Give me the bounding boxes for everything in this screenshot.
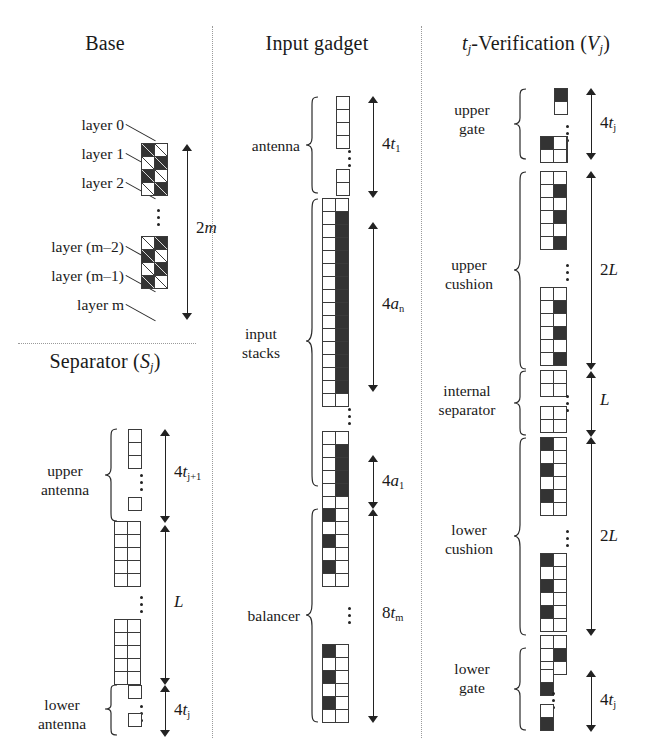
cell-empty bbox=[114, 645, 128, 659]
cell-empty bbox=[553, 450, 567, 464]
cell-empty bbox=[540, 383, 554, 397]
separator-lower-antenna-tail bbox=[129, 714, 142, 727]
cell-filled bbox=[540, 717, 554, 731]
cell-filled bbox=[154, 236, 168, 250]
cell-empty bbox=[322, 483, 336, 497]
cell-empty bbox=[540, 618, 554, 632]
verification-upper-gate-measure: 4tj bbox=[600, 113, 616, 133]
verification-internal-separator-top bbox=[541, 371, 567, 397]
cell-empty bbox=[540, 502, 554, 516]
cell-empty bbox=[335, 534, 349, 548]
cell-empty bbox=[553, 463, 567, 477]
cell-empty bbox=[540, 450, 554, 464]
cell-filled bbox=[335, 250, 349, 264]
stack-row bbox=[115, 574, 141, 587]
cell-filled bbox=[335, 367, 349, 381]
cell-empty bbox=[553, 339, 567, 353]
input-balancer-measure-label: 8tm bbox=[382, 603, 403, 623]
verification-upper-cushion-arrow bbox=[586, 171, 597, 370]
cell-empty bbox=[114, 573, 128, 587]
input-balancer-label: balancer bbox=[218, 607, 300, 626]
cell-empty bbox=[335, 573, 349, 587]
stack-row bbox=[337, 136, 350, 149]
cell-empty bbox=[141, 236, 155, 250]
cell-empty bbox=[114, 534, 128, 548]
input-antenna-label: antenna bbox=[218, 137, 300, 156]
stack-row bbox=[541, 353, 567, 366]
cell-empty bbox=[540, 370, 554, 384]
cell-empty bbox=[540, 669, 554, 683]
cell-empty bbox=[335, 393, 349, 407]
cell-empty bbox=[127, 534, 141, 548]
figure-canvas: Base Separator (Sj) Input gadget tj-Veri… bbox=[0, 0, 649, 740]
cell-filled bbox=[540, 489, 554, 503]
cell-filled bbox=[553, 300, 567, 314]
stack-row bbox=[129, 456, 142, 469]
cell-empty bbox=[141, 156, 155, 170]
cell-filled bbox=[141, 169, 155, 183]
base-layer-label-m: layer m bbox=[8, 296, 124, 315]
stack-row bbox=[541, 420, 567, 433]
cell-empty bbox=[553, 406, 567, 420]
verification-upper-gate-join bbox=[541, 137, 567, 163]
cell-empty bbox=[114, 632, 128, 646]
cell-empty bbox=[540, 236, 554, 250]
verification-upper-cushion-bottom bbox=[541, 288, 567, 366]
cell-filled bbox=[322, 560, 336, 574]
cell-empty bbox=[335, 521, 349, 535]
input-antenna-ellipsis bbox=[348, 150, 351, 171]
cell-empty bbox=[322, 224, 336, 238]
separator-upper-antenna-tail bbox=[129, 498, 142, 511]
cell-empty bbox=[322, 276, 336, 290]
cell-empty bbox=[127, 671, 141, 685]
cell-empty bbox=[553, 136, 567, 150]
cell-empty bbox=[540, 149, 554, 163]
cell-empty bbox=[540, 210, 554, 224]
cell-empty bbox=[335, 508, 349, 522]
cell-empty bbox=[540, 300, 554, 314]
separator-upper-measure-label: 4tj+1 bbox=[174, 462, 201, 482]
cell-empty bbox=[322, 393, 336, 407]
panel-title-input-gadget: Input gadget bbox=[214, 32, 420, 55]
separator-L-measure-arrow bbox=[160, 525, 171, 685]
input-balancer-bottom bbox=[323, 645, 349, 723]
cell-empty bbox=[540, 171, 554, 185]
cell-empty bbox=[553, 419, 567, 433]
base-stack-upper bbox=[142, 144, 168, 196]
cell-filled bbox=[141, 275, 155, 289]
cell-filled bbox=[335, 354, 349, 368]
separator-lower-antenna-label: lower antenna bbox=[24, 696, 100, 733]
cell-empty bbox=[540, 476, 554, 490]
cell-empty bbox=[553, 605, 567, 619]
cell-empty bbox=[553, 592, 567, 606]
verification-upper-gate-brace bbox=[513, 88, 527, 160]
cell-empty bbox=[336, 135, 350, 149]
input-balancer-ellipsis bbox=[348, 607, 351, 628]
separator-body-bottom bbox=[115, 620, 141, 685]
separator-upper-antenna-label: upper antenna bbox=[30, 462, 100, 499]
cell-empty bbox=[127, 645, 141, 659]
cell-empty bbox=[553, 370, 567, 384]
cell-empty bbox=[540, 704, 554, 718]
input-stacks-ellipsis bbox=[348, 408, 351, 429]
cell-empty bbox=[540, 287, 554, 301]
cell-empty bbox=[322, 237, 336, 251]
cell-empty bbox=[141, 182, 155, 196]
input-an-measure-label: 4an bbox=[382, 294, 404, 314]
cell-filled bbox=[154, 156, 168, 170]
cell-empty bbox=[154, 275, 168, 289]
separator-body-ellipsis bbox=[140, 596, 143, 617]
verification-lower-cushion-label: lower cushion bbox=[430, 521, 508, 558]
cell-empty bbox=[127, 619, 141, 633]
cell-empty bbox=[128, 685, 142, 699]
base-ellipsis bbox=[157, 209, 160, 230]
stack-row bbox=[541, 619, 567, 632]
cell-filled bbox=[540, 605, 554, 619]
cell-filled bbox=[335, 457, 349, 471]
cell-empty bbox=[540, 419, 554, 433]
cell-filled bbox=[540, 579, 554, 593]
cell-empty bbox=[553, 489, 567, 503]
cell-empty bbox=[335, 644, 349, 658]
cell-empty bbox=[114, 619, 128, 633]
stack-row bbox=[541, 237, 567, 250]
